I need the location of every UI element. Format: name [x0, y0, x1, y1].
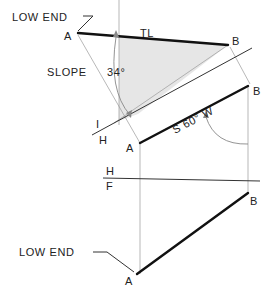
fold-line-h-f — [103, 178, 260, 181]
label-fold-h-1: H — [99, 134, 108, 146]
line-ab-front — [137, 193, 248, 274]
label-point-b-aux: B — [232, 35, 240, 47]
leader-low-end-top — [78, 16, 93, 31]
label-point-b-front: B — [250, 195, 258, 207]
label-point-a-aux: A — [64, 30, 72, 42]
leader-low-end-bottom — [93, 252, 134, 272]
label-low-end-top: LOW END — [12, 11, 68, 23]
label-slope-angle: 34° — [107, 66, 125, 78]
label-point-a-front: A — [125, 275, 133, 287]
label-point-b-horizontal: B — [253, 85, 261, 97]
label-slope: SLOPE — [47, 66, 87, 78]
bearing-angle-arc — [206, 117, 248, 144]
slope-arrow-top-icon — [113, 30, 119, 37]
label-bearing: S 60° W — [170, 104, 215, 136]
descriptive-geometry-diagram: LOW END A TL B SLOPE 34° I H A B S 60° W… — [0, 0, 270, 290]
label-low-end-bottom: LOW END — [19, 246, 75, 258]
label-true-length: TL — [140, 27, 154, 39]
projector-b-aux — [230, 47, 250, 84]
label-fold-f: F — [106, 180, 113, 192]
label-point-a-horizontal: A — [126, 142, 134, 154]
label-fold-h-2: H — [106, 165, 115, 177]
label-fold-i: I — [96, 118, 100, 130]
